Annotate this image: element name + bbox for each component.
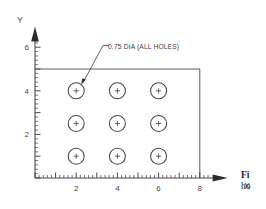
engineering-drawing: 2468246 0.75 DIA (ALL HOLES) X Y <box>0 0 266 209</box>
leader-line-group <box>81 46 109 85</box>
x-tick-label: 4 <box>115 184 120 193</box>
y-tick-label: 2 <box>25 130 30 139</box>
y-tick-label: 4 <box>25 87 30 96</box>
x-tick-label: 6 <box>156 184 161 193</box>
caption-line-2: ho <box>241 181 266 192</box>
y-tick-label: 6 <box>25 43 30 52</box>
x-tick-label: 8 <box>198 184 203 193</box>
axis-group: 2468246 <box>25 27 228 193</box>
arrow-right-icon <box>213 174 228 181</box>
figure-caption: Fi ho <box>241 170 266 192</box>
leader-line-diagonal <box>83 46 103 84</box>
figure-root: 2468246 0.75 DIA (ALL HOLES) X Y Fi ho <box>0 0 266 209</box>
y-axis-label: Y <box>17 15 23 25</box>
x-tick-label: 2 <box>74 184 79 193</box>
caption-line-1: Fi <box>241 170 266 181</box>
leader-arrowhead-icon <box>81 78 86 84</box>
hole-pattern-group <box>68 83 166 164</box>
hole-diameter-note: 0.75 DIA (ALL HOLES) <box>108 43 179 51</box>
arrow-up-icon <box>31 27 39 42</box>
